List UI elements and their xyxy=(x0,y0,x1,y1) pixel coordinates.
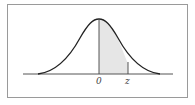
z-label: z xyxy=(125,76,130,86)
origin-label: 0 xyxy=(96,76,102,86)
normal-curve-diagram xyxy=(0,0,195,105)
